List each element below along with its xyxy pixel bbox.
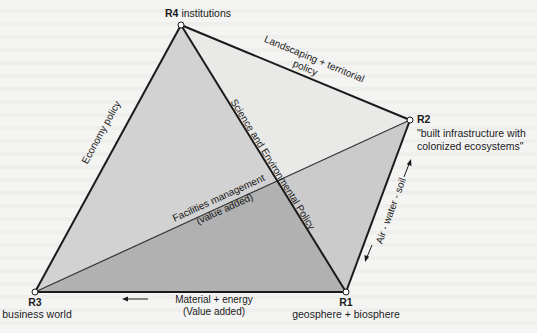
arrow-left-icon [122, 297, 148, 302]
node-r1-id: R1 [339, 296, 353, 308]
tetrahedron-diagram: R4institutions R2 "built infrastructure … [0, 0, 537, 333]
node-r3 [32, 289, 38, 295]
edge-label-material-energy-line2: (Value added) [183, 306, 245, 317]
arrow-up-right-icon [404, 159, 412, 177]
node-r2-label-line2: colonized ecosystems" [417, 140, 524, 152]
node-r4-id: R4 [165, 7, 179, 19]
node-r2-label-line1: "built infrastructure with [417, 127, 526, 139]
node-r4-text: institutions [181, 7, 231, 19]
node-r1-label: geosphere + biosphere [292, 308, 400, 320]
node-r1 [343, 289, 349, 295]
node-r4 [178, 22, 184, 28]
node-r4-label: R4institutions [165, 7, 231, 19]
node-r2-id: R2 [417, 113, 431, 125]
edge-label-material-energy-line1: Material + energy [175, 294, 253, 305]
node-r3-id: R3 [28, 296, 42, 308]
arrow-down-left-icon [365, 245, 373, 262]
node-r2 [407, 117, 413, 123]
node-r3-label: business world [2, 308, 72, 320]
